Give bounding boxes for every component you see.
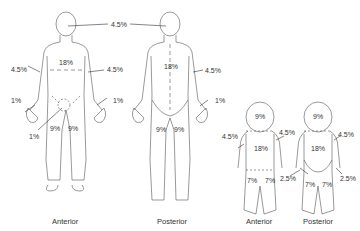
adult-anterior-arm-right-label: 4.5% (107, 66, 123, 73)
infant-posterior-buttock-left-label: 2.5% (280, 175, 296, 182)
infant-posterior-head-label: 9% (313, 113, 323, 120)
adult-posterior-figure (132, 12, 208, 200)
adult-posterior-leg-left-label: 9% (156, 126, 166, 133)
infant-anterior-caption: Anterior (246, 218, 272, 226)
infant-posterior-arm-right-label: 4.5% (338, 131, 354, 138)
adult-anterior-leg-right-label: 9% (68, 125, 78, 132)
infant-anterior-head-label: 9% (255, 113, 265, 120)
adult-anterior-figure (25, 12, 107, 191)
adult-anterior-hand-left-label: 1% (11, 97, 21, 104)
infant-posterior-leg-left-label: 7% (305, 181, 315, 188)
infant-posterior-caption: Posterior (303, 218, 333, 226)
infant-anterior-leg-left-label: 7% (247, 177, 257, 184)
adult-anterior-arm-left-label: 4.5% (11, 66, 27, 73)
infant-anterior-leg-right-label: 7% (265, 177, 275, 184)
adult-anterior-caption: Anterior (52, 218, 78, 226)
rule-of-nines-figures (0, 0, 360, 231)
adult-posterior-trunk-label: 18% (164, 63, 178, 70)
adult-posterior-arm-right-label: 4.5% (205, 67, 221, 74)
head-label: 4.5% (111, 21, 127, 28)
adult-posterior-caption: Posterior (157, 218, 187, 226)
adult-anterior-trunk-label: 18% (59, 59, 73, 66)
infant-anterior-arm-left-label: 4.5% (222, 133, 238, 140)
infant-posterior-leg-right-label: 7% (322, 181, 332, 188)
adult-anterior-leg-left-label: 9% (50, 125, 60, 132)
adult-posterior-leg-right-label: 9% (174, 126, 184, 133)
infant-posterior-trunk-label: 18% (311, 145, 325, 152)
adult-anterior-genitals-label: 1% (29, 133, 39, 140)
adult-posterior-hand-right-label: 1% (215, 97, 225, 104)
infant-posterior-buttock-right-label: 2.5% (340, 175, 356, 182)
adult-anterior-hand-right-label: 1% (113, 97, 123, 104)
infant-anterior-trunk-label: 18% (254, 145, 268, 152)
infant-anterior-arm-right-label: 4.5% (279, 129, 295, 136)
